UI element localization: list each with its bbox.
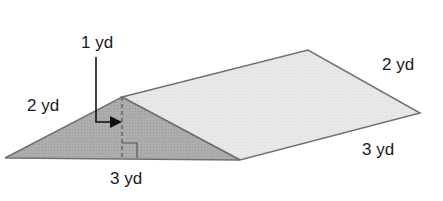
slant-side-label: 2 yd — [27, 97, 59, 114]
prism-svg — [0, 0, 443, 201]
height-label: 1 yd — [81, 34, 113, 51]
back-slant-label: 2 yd — [382, 56, 414, 73]
length-label: 3 yd — [362, 141, 394, 158]
base-label: 3 yd — [110, 170, 142, 187]
prism-diagram: 1 yd 2 yd 3 yd 2 yd 3 yd — [0, 0, 443, 201]
